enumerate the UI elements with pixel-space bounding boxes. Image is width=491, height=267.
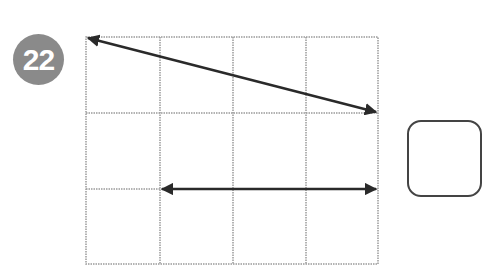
- answer-box[interactable]: [407, 120, 482, 197]
- grid-lines: [86, 37, 378, 264]
- diagonal-arrow: [88, 38, 376, 112]
